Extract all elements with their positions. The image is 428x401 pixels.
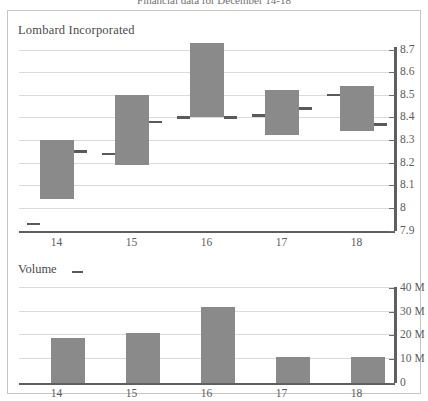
price-open-tick (177, 116, 190, 119)
price-ohlc-bar (40, 11, 74, 248)
volume-y-tick (389, 335, 395, 336)
price-y-tick (389, 117, 395, 118)
price-close-tick (74, 150, 87, 153)
price-y-tick (389, 185, 395, 186)
volume-legend-dash-icon (72, 271, 83, 274)
volume-bar (351, 357, 385, 383)
figure-caption-fragment: Financial data for December 14-18 (0, 0, 428, 9)
price-ohlc-body (40, 140, 74, 199)
volume-x-axis (19, 383, 395, 385)
price-ohlc-bar (190, 11, 224, 248)
price-close-tick (299, 107, 312, 110)
price-x-tick-label: 17 (262, 236, 302, 248)
price-y-tick-label: 8.4 (400, 111, 414, 122)
price-y-tick (389, 208, 395, 209)
price-ohlc-bar (340, 11, 374, 248)
volume-bar (276, 357, 310, 383)
volume-x-tick-label: 16 (187, 387, 227, 399)
price-y-tick-label: 8.2 (400, 157, 414, 168)
financial-chart-figure: Financial data for December 14-18 Lombar… (0, 0, 428, 401)
price-ohlc-body (190, 43, 224, 118)
price-y-tick-label: 8.6 (400, 66, 414, 77)
volume-y-tick (389, 312, 395, 313)
price-y-tick (389, 50, 395, 51)
volume-panel-title: Volume (18, 262, 57, 277)
volume-x-tick-label: 17 (262, 387, 302, 399)
price-y-tick-label: 7.9 (400, 225, 414, 236)
price-y-tick-label: 8.7 (400, 44, 414, 55)
price-ohlc-bar (115, 11, 149, 248)
price-ohlc-body (265, 90, 299, 135)
volume-bar (201, 307, 235, 383)
price-close-tick (224, 116, 237, 119)
price-x-tick-label: 16 (187, 236, 227, 248)
price-open-tick (327, 94, 340, 97)
price-ohlc-body (115, 95, 149, 165)
volume-gridline (19, 287, 394, 288)
price-y-tick-label: 8.5 (400, 89, 414, 100)
volume-bar (126, 333, 160, 383)
volume-bar (51, 338, 85, 383)
price-y-tick (389, 231, 395, 232)
volume-y-tick-label: 0 (400, 377, 406, 388)
price-y-tick-label: 8.1 (400, 179, 414, 190)
volume-plot-area (19, 287, 394, 383)
price-close-tick (149, 121, 162, 124)
price-y-tick (389, 95, 395, 96)
price-ohlc-body (340, 86, 374, 131)
price-y-tick-label: 8.3 (400, 134, 414, 145)
price-y-axis (394, 47, 397, 231)
volume-x-tick-label: 18 (337, 387, 377, 399)
volume-y-tick (389, 359, 395, 360)
price-open-tick (252, 114, 265, 117)
price-y-tick-label: 8 (400, 202, 406, 213)
chart-frame: Lombard Incorporated Volume 8.78.68.58.4… (7, 10, 421, 394)
price-x-tick-label: 15 (112, 236, 152, 248)
volume-y-tick-label: 30 M (400, 306, 425, 317)
volume-y-tick (389, 383, 395, 384)
volume-x-tick-label: 15 (112, 387, 152, 399)
price-open-tick (27, 223, 40, 226)
price-x-tick-label: 18 (337, 236, 377, 248)
price-ohlc-bar (265, 11, 299, 248)
price-close-tick (374, 123, 387, 126)
volume-y-tick-label: 20 M (400, 329, 425, 340)
price-x-tick-label: 14 (37, 236, 77, 248)
price-y-tick (389, 140, 395, 141)
volume-y-tick-label: 40 M (400, 282, 425, 293)
price-y-tick (389, 72, 395, 73)
volume-y-tick-label: 10 M (400, 353, 425, 364)
volume-y-tick (389, 288, 395, 289)
price-y-tick (389, 163, 395, 164)
price-open-tick (102, 153, 115, 156)
volume-x-tick-label: 14 (37, 387, 77, 399)
